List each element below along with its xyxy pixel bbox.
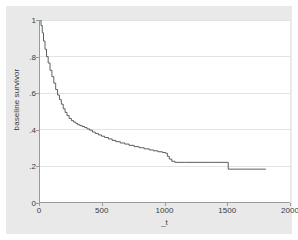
ytick-label-1: 1 (10, 16, 36, 25)
xtick-label-0: 0 (19, 206, 59, 215)
ytick-label-02: .2 (10, 162, 36, 171)
xtick-label-1500: 1500 (207, 206, 247, 215)
plot-svg (40, 20, 291, 203)
chart-figure: 1 .8 .6 .4 .2 0 0 500 1000 1500 2000 bas… (0, 0, 298, 240)
ytick-mark-04 (36, 130, 39, 131)
ytick-mark-08 (36, 57, 39, 58)
series-line-baseline-survivor (40, 20, 266, 169)
xtick-label-2000: 2000 (270, 206, 298, 215)
y-axis-tick-labels: 1 .8 .6 .4 .2 0 (6, 0, 36, 240)
x-axis-title: _t (39, 218, 290, 227)
xtick-label-500: 500 (82, 206, 122, 215)
series-line-group (40, 20, 266, 169)
gridlines (40, 20, 291, 203)
ytick-mark-1 (36, 20, 39, 21)
ytick-mark-02 (36, 166, 39, 167)
ytick-mark-06 (36, 93, 39, 94)
plot-area (39, 20, 290, 203)
xtick-label-1000: 1000 (145, 206, 185, 215)
y-axis-title: baseline survivor (12, 40, 21, 160)
